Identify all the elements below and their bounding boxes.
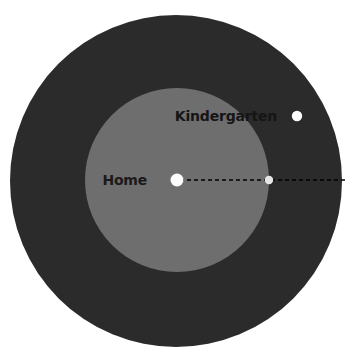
radius-endpoint-dot <box>265 176 273 184</box>
home-label: Home <box>102 172 147 188</box>
home-marker-dot[interactable] <box>171 174 184 187</box>
diagram-canvas: Home Kindergarten <box>0 0 356 361</box>
kindergarten-label: Kindergarten <box>175 108 277 124</box>
kindergarten-marker-dot[interactable] <box>292 111 302 121</box>
radius-map-svg: Home Kindergarten <box>0 0 356 361</box>
